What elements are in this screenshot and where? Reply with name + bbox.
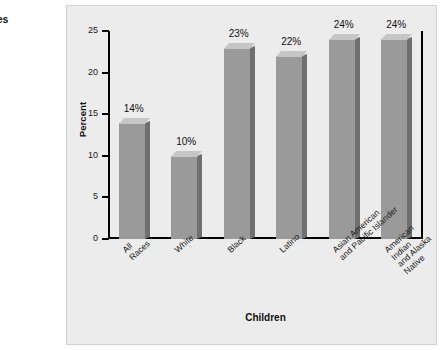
bar-value-label: 24% bbox=[372, 19, 420, 30]
bar-face bbox=[276, 56, 302, 239]
bar-face bbox=[329, 39, 355, 239]
bar-side-face bbox=[302, 54, 307, 239]
figure-title: n under d Families bbox=[0, 1, 66, 25]
bar-face bbox=[224, 48, 250, 239]
y-axis-tick-label: 0 bbox=[72, 234, 98, 243]
figure-source-note: , Table 7. bbox=[0, 26, 66, 37]
screenshot-root: n under d Families , Table 7. Percent 25… bbox=[0, 0, 444, 350]
y-axis-title: Percent bbox=[77, 90, 88, 150]
y-axis-tick-label: 25 bbox=[72, 26, 98, 35]
caption-column: n under d Families , Table 7. bbox=[0, 0, 66, 350]
chart-panel: Percent 2520151050 14%10%23%22%24%24% Al… bbox=[66, 5, 437, 345]
y-axis-tick-label: 5 bbox=[72, 192, 98, 201]
bar-top-face bbox=[329, 34, 360, 40]
bar-face bbox=[171, 156, 197, 239]
bar-side-face bbox=[197, 154, 202, 239]
y-axis-tick-label: 10 bbox=[72, 151, 98, 160]
bar-side-face bbox=[407, 37, 412, 239]
x-axis-title: Children bbox=[108, 312, 423, 323]
bar-side-face bbox=[250, 46, 255, 239]
bar-top-face bbox=[119, 118, 150, 124]
chart-plot-area: Percent 2520151050 14%10%23%22%24%24% Al… bbox=[67, 6, 436, 344]
bar-value-label: 24% bbox=[320, 19, 368, 30]
y-axis-tick-label: 20 bbox=[72, 68, 98, 77]
bar bbox=[171, 156, 201, 239]
bar bbox=[276, 56, 306, 239]
bar-top-face bbox=[276, 51, 307, 57]
bar bbox=[329, 39, 359, 239]
bar-side-face bbox=[145, 121, 150, 239]
bar-value-label: 22% bbox=[267, 36, 315, 47]
bar-top-face bbox=[171, 151, 202, 157]
x-axis-category-labels: All RacesWhiteBlackLatinoAsian American … bbox=[108, 242, 437, 314]
bar-face bbox=[119, 123, 145, 239]
bar bbox=[119, 123, 149, 239]
bar-side-face bbox=[355, 37, 360, 239]
y-axis-tick-label: 15 bbox=[72, 109, 98, 118]
bar-value-label: 23% bbox=[215, 28, 263, 39]
bar-value-label: 10% bbox=[162, 136, 210, 147]
bar bbox=[224, 48, 254, 239]
bar-value-label: 14% bbox=[110, 103, 158, 114]
bar-top-face bbox=[224, 43, 255, 49]
